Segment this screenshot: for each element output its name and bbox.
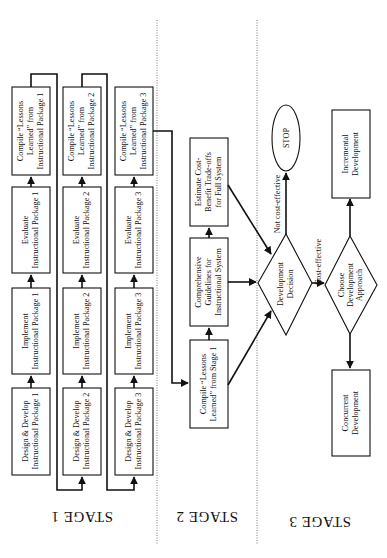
svg-text:for Full System: for Full System [214,156,223,208]
svg-text:Instructional Package 1: Instructional Package 1 [36,93,45,170]
svg-text:Development: Development [276,261,285,306]
svg-text:Estimate Cost-: Estimate Cost- [194,158,203,207]
svg-text:Learned” from Stage 1: Learned” from Stage 1 [209,347,218,422]
svg-text:Cost-effective: Cost-effective [314,239,323,286]
svg-text:Instructional Package 1: Instructional Package 1 [31,393,40,470]
svg-text:Comprehensive: Comprehensive [194,256,203,308]
svg-text:Development: Development [346,262,355,307]
svg-text:Instructional Package 3: Instructional Package 3 [134,293,143,370]
svg-text:Evaluate: Evaluate [21,215,30,244]
svg-text:Development: Development [351,390,360,435]
package-1-column: Design & Develop Instructional Package 1… [12,87,50,475]
svg-text:Decision: Decision [286,269,295,298]
svg-text:Instructional Package 2: Instructional Package 2 [82,293,91,370]
svg-text:STAGE 1: STAGE 1 [51,509,113,525]
package-2-column: Design & Develop Instructional Package 2… [63,87,101,475]
svg-text:Implement: Implement [124,313,133,349]
svg-text:Compile “Lessons: Compile “Lessons [119,101,128,161]
svg-text:Instructional Package 2: Instructional Package 2 [87,93,96,170]
svg-text:Design & Develop: Design & Develop [72,400,81,461]
svg-text:Benefit Trade-offs: Benefit Trade-offs [204,152,213,212]
svg-text:Compile “Lessons: Compile “Lessons [199,354,208,414]
svg-text:Design & Develop: Design & Develop [124,400,133,461]
svg-text:Instructional Package 2: Instructional Package 2 [82,192,91,269]
flowchart-diagram: STAGE 1 STAGE 2 STAGE 3 Design & Develop… [0,0,387,558]
svg-text:Incremental: Incremental [341,134,350,174]
svg-text:Choose: Choose [337,272,346,297]
svg-text:Implement: Implement [21,313,30,349]
svg-text:Learned” from: Learned” from [26,106,35,155]
connector-stage1-to-stage2 [153,131,188,383]
svg-text:Instructional Package 1: Instructional Package 1 [31,192,40,269]
svg-text:STAGE 3: STAGE 3 [289,514,351,530]
svg-text:Concurrent: Concurrent [341,394,350,432]
svg-text:Not cost-effective: Not cost-effective [273,174,282,233]
stage1-label: STAGE 1 [51,509,113,525]
svg-text:Instructional Package 3: Instructional Package 3 [134,192,143,269]
package-3-column: Design & Develop Instructional Package 3… [115,87,153,475]
svg-text:Instructional Package 3: Instructional Package 3 [139,93,148,170]
svg-text:Guidelines for: Guidelines for [204,258,213,305]
svg-text:Design & Develop: Design & Develop [21,400,30,461]
stage2-label: STAGE 2 [176,509,238,525]
svg-text:Instructional Package 2: Instructional Package 2 [82,393,91,470]
svg-text:Learned” from: Learned” from [77,106,86,155]
svg-text:STAGE 2: STAGE 2 [176,509,238,525]
svg-text:Instructional Package 1: Instructional Package 1 [31,293,40,370]
svg-text:Evaluate: Evaluate [124,215,133,244]
svg-text:Implement: Implement [72,313,81,349]
svg-text:Instructional System: Instructional System [214,248,223,316]
svg-text:Development: Development [351,131,360,176]
svg-text:Approach: Approach [355,269,364,301]
compile-to-decision-arrow [228,311,271,385]
svg-text:Instructional Package 3: Instructional Package 3 [134,393,143,470]
svg-text:Compile “Lessons: Compile “Lessons [67,101,76,161]
stage3-label: STAGE 3 [289,514,351,530]
svg-text:Compile “Lessons: Compile “Lessons [16,101,25,161]
svg-text:STOP: STOP [282,128,291,148]
svg-text:Learned” from: Learned” from [129,106,138,155]
svg-text:Evaluate: Evaluate [72,215,81,244]
estimate-to-decision-arrow [228,185,271,254]
